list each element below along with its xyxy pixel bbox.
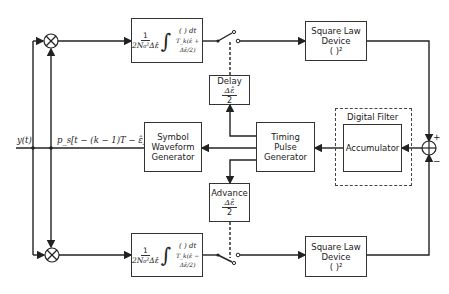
sld-line1: Square Law bbox=[311, 26, 361, 36]
gain-denominator: 2N₀²Δε̂ bbox=[132, 41, 159, 50]
sld-line2: Device bbox=[321, 252, 350, 262]
integration-limits: T_k(ε̂ + Δε̂/2) bbox=[173, 36, 202, 54]
gain-numerator: 1 bbox=[141, 31, 150, 41]
sld-line1: Square Law bbox=[311, 242, 361, 252]
advance-block: Advance Δε̂2 bbox=[209, 183, 250, 222]
integrand: ( ) dt bbox=[173, 27, 202, 36]
mixer-top bbox=[44, 34, 58, 48]
tpg-line1: Timing bbox=[271, 132, 300, 142]
integral-icon: ∫ bbox=[161, 31, 171, 51]
integrator-top: 12N₀²Δε̂ ∫ ( ) dtT_k(ε̂ + Δε̂/2) bbox=[131, 18, 203, 63]
digital-filter-title: Digital Filter bbox=[347, 112, 398, 122]
input-label: y(t) bbox=[17, 135, 32, 145]
sld-line3: ( )² bbox=[330, 262, 343, 272]
summer bbox=[422, 141, 436, 155]
sld-line2: Device bbox=[321, 36, 350, 46]
sld-line3: ( )² bbox=[330, 46, 343, 56]
tpg-line2: Pulse bbox=[274, 142, 296, 152]
integrand: ( ) dt bbox=[173, 242, 202, 251]
accumulator-label: Accumulator bbox=[346, 143, 400, 153]
symbol-waveform-generator: Symbol Waveform Generator bbox=[144, 122, 202, 172]
swg-line3: Generator bbox=[151, 152, 194, 162]
delay-title: Delay bbox=[217, 76, 241, 86]
integral-icon: ∫ bbox=[161, 245, 171, 265]
delay-numerator: Δε̂ bbox=[222, 86, 236, 96]
gain-numerator: 1 bbox=[141, 246, 150, 256]
mixer-bottom bbox=[45, 248, 59, 262]
square-law-device-top: Square Law Device ( )² bbox=[305, 21, 367, 61]
reference-label: p_s[t − (k − 1)T − ε̂] bbox=[57, 135, 146, 145]
gain-denominator: 2N₀²Δε̂ bbox=[132, 256, 159, 265]
tpg-line3: Generator bbox=[264, 152, 307, 162]
square-law-device-bottom: Square Law Device ( )² bbox=[305, 236, 367, 277]
advance-title: Advance bbox=[211, 188, 248, 198]
timing-pulse-generator: Timing Pulse Generator bbox=[256, 122, 315, 172]
delay-block: Delay Δε̂2 bbox=[209, 75, 250, 105]
integrator-bottom: 12N₀²Δε̂ ∫ ( ) dtT_k(ε̂ − Δε̂/2) bbox=[131, 233, 203, 277]
summer-plus: + bbox=[433, 132, 441, 142]
swg-line1: Symbol bbox=[157, 132, 189, 142]
swg-line2: Waveform bbox=[151, 142, 194, 152]
summer-minus: − bbox=[433, 156, 441, 166]
delay-denominator: 2 bbox=[227, 96, 232, 105]
accumulator: Accumulator bbox=[343, 124, 402, 172]
advance-numerator: Δε̂ bbox=[222, 198, 236, 208]
advance-denominator: 2 bbox=[227, 208, 232, 217]
integration-limits: T_k(ε̂ − Δε̂/2) bbox=[173, 251, 202, 269]
